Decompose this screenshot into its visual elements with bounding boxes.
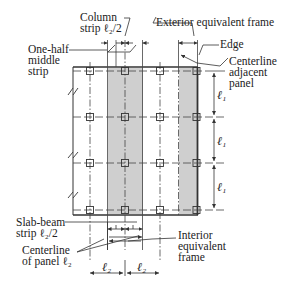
dim-l1-top: ℓ₁ xyxy=(217,88,226,103)
row-centerlines xyxy=(73,71,225,210)
label-one-half-middle-strip: One-half middle strip xyxy=(28,44,69,77)
dim-l2-left: ℓ₂ xyxy=(102,260,111,275)
dim-l2-right: ℓ₂ xyxy=(137,260,146,275)
dim-l1-middle: ℓ₁ xyxy=(217,134,226,149)
label-exterior-frame: Exterior equivalent frame xyxy=(156,17,274,28)
label-edge: Edge xyxy=(220,39,244,50)
interior-frame-shading xyxy=(108,68,143,214)
label-centerline-adjacent-panel: Centerline adjacent panel xyxy=(229,56,277,89)
label-column-strip: Column strip ℓ₂/2 xyxy=(80,12,122,34)
label-centerline-of-panel: Centerline of panel ℓ₂ xyxy=(22,245,72,267)
bottom-dimension-arrows xyxy=(65,222,176,276)
label-interior-frame: Interior equivalent frame xyxy=(178,230,226,263)
dim-l1-bottom: ℓ₁ xyxy=(217,180,226,195)
exterior-frame-shading xyxy=(179,68,197,214)
label-slab-beam-strip: Slab-beam strip ℓ₂/2 xyxy=(16,217,65,239)
